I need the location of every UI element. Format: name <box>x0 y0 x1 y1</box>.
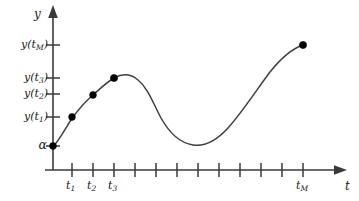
t-tick-label-tM: tM <box>296 180 308 192</box>
t-tick-label-t2-sub: 2 <box>91 184 96 193</box>
y-tick-label-ytM-sub: M <box>36 43 44 52</box>
plot-svg <box>0 0 359 201</box>
t-tick-label-t3: t3 <box>108 180 117 192</box>
y-tick-label-yt3-base: y(t <box>24 71 39 84</box>
y-tick-label-ytM: y(tM) <box>21 39 48 51</box>
figure-canvas: y t y(tM) y(t3) y(t2) y(t1) α t1 t2 t3 t… <box>0 0 359 201</box>
y-tick-label-yt2-close: ) <box>44 87 48 100</box>
data-point-yt3 <box>110 74 117 81</box>
t-tick-label-t3-sub: 3 <box>112 184 117 193</box>
y-tick-label-yt1-base: y(t <box>24 110 39 123</box>
y-axis-label: y <box>34 8 41 20</box>
t-axis-group <box>45 163 347 177</box>
t-tick-label-t1-sub: 1 <box>70 184 75 193</box>
data-point-alpha <box>50 143 57 150</box>
y-tick-label-yt1-close: ) <box>44 110 48 123</box>
t-tick-label-t1: t1 <box>66 180 75 192</box>
y-tick-label-yt2-base: y(t <box>24 87 39 100</box>
y-tick-label-yt3-close: ) <box>44 71 48 84</box>
t-tick-label-t2: t2 <box>87 180 96 192</box>
y-tick-label-ytM-base: y(t <box>21 38 36 51</box>
y-tick-label-yt2: y(t2) <box>24 88 48 100</box>
marked-points-group <box>50 41 307 149</box>
t-axis-label: t <box>345 180 350 192</box>
data-point-yt2 <box>90 92 97 99</box>
y-tick-label-alpha: α <box>39 139 47 152</box>
y-axis-arrowhead <box>48 5 58 18</box>
data-point-ytM <box>299 41 306 48</box>
t-axis-arrowhead <box>334 165 347 175</box>
y-tick-label-yt3: y(t3) <box>24 72 48 84</box>
y-tick-label-yt1: y(t1) <box>24 111 48 123</box>
y-tick-label-ytM-close: ) <box>44 38 48 51</box>
t-tick-label-tM-sub: M <box>300 184 308 193</box>
data-point-yt1 <box>69 114 76 121</box>
